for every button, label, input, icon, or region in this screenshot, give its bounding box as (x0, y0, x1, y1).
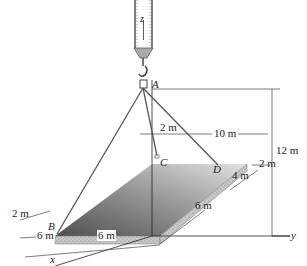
point-d-label: D (213, 164, 221, 175)
y-axis-label: y (291, 230, 296, 241)
point-c-label: C (160, 157, 167, 168)
z-axis-label: z (140, 14, 144, 24)
point-a-label: A (152, 79, 159, 90)
dim-height-12m: 12 m (276, 145, 298, 156)
dim-d-4m: 4 m (232, 170, 249, 181)
x-axis-label: x (50, 254, 55, 265)
plate-cable-diagram (0, 0, 307, 266)
dim-front-6m-right: 6 m (97, 230, 116, 241)
dim-right-6m: 6 m (195, 200, 212, 211)
dim-d-2m: 2 m (259, 158, 276, 169)
dim-front-6m-left: 6 m (36, 230, 55, 241)
dim-d-10m: 10 m (212, 128, 238, 139)
dim-c-2m: 2 m (160, 122, 177, 133)
dim-b-2m: 2 m (12, 208, 29, 219)
